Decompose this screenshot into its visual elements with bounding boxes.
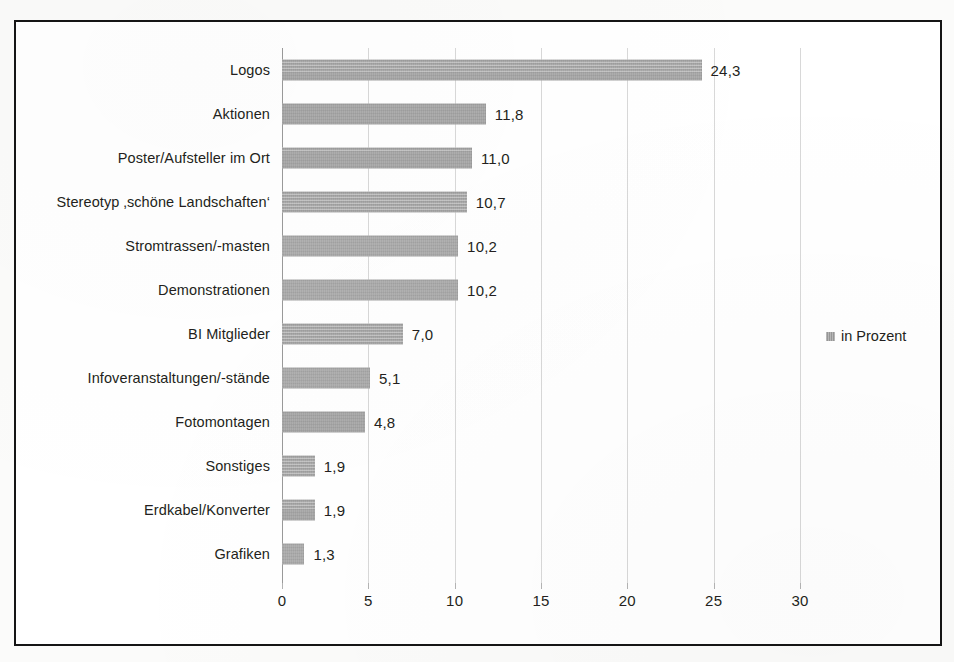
chart-bar-row: Sonstiges1,9: [0, 444, 954, 488]
legend-label: in Prozent: [841, 328, 906, 344]
chart-bar-row: Infoveranstaltungen/-stände5,1: [0, 356, 954, 400]
x-axis-tick-label: 10: [435, 592, 475, 609]
x-axis-tick: [455, 583, 456, 589]
chart-bar-row: Demonstrationen10,2: [0, 268, 954, 312]
chart-bar-row: Erdkabel/Konverter1,9: [0, 488, 954, 532]
chart-plot-area: 051015202530Logos24,3Aktionen11,8Poster/…: [0, 0, 954, 662]
category-label: Stereotyp ‚schöne Landschaften‘: [57, 194, 271, 210]
chart-bar-row: Poster/Aufsteller im Ort11,0: [0, 136, 954, 180]
bar-value-label: 24,3: [711, 62, 741, 79]
category-label: Sonstiges: [205, 458, 270, 474]
bar-value-label: 1,9: [324, 502, 345, 519]
bar-value-label: 4,8: [374, 414, 395, 431]
chart-bar: [282, 368, 370, 389]
x-axis-tick: [714, 583, 715, 589]
x-axis-tick-label: 15: [521, 592, 561, 609]
category-label: Fotomontagen: [175, 414, 270, 430]
category-label: Infoveranstaltungen/-stände: [88, 370, 270, 386]
chart-bar: [282, 236, 458, 257]
category-label: Poster/Aufsteller im Ort: [118, 150, 270, 166]
bar-value-label: 10,2: [467, 238, 497, 255]
chart-bar: [282, 412, 365, 433]
bar-value-label: 10,2: [467, 282, 497, 299]
chart-bar-row: Stromtrassen/-masten10,2: [0, 224, 954, 268]
bar-value-label: 1,9: [324, 458, 345, 475]
chart-legend: in Prozent: [826, 328, 906, 344]
chart-bar: [282, 148, 472, 169]
x-axis-tick: [368, 583, 369, 589]
x-axis-tick-label: 30: [780, 592, 820, 609]
chart-bar: [282, 324, 403, 345]
chart-bar-row: Logos24,3: [0, 48, 954, 92]
x-axis-tick-label: 0: [262, 592, 302, 609]
chart-bar-row: Fotomontagen4,8: [0, 400, 954, 444]
category-label: Logos: [230, 62, 270, 78]
chart-bar: [282, 456, 315, 477]
category-label: Demonstrationen: [158, 282, 270, 298]
bar-value-label: 11,0: [481, 150, 510, 167]
x-axis-tick-label: 5: [348, 592, 388, 609]
legend-swatch-icon: [826, 332, 835, 341]
x-axis-tick: [282, 583, 283, 589]
bar-value-label: 1,3: [313, 546, 334, 563]
chart-bar-row: Stereotyp ‚schöne Landschaften‘10,7: [0, 180, 954, 224]
chart-bar-row: Grafiken1,3: [0, 532, 954, 576]
scanned-chart-page: 051015202530Logos24,3Aktionen11,8Poster/…: [0, 0, 954, 662]
chart-bar: [282, 280, 458, 301]
category-label: BI Mitglieder: [188, 326, 270, 342]
bar-value-label: 10,7: [476, 194, 506, 211]
chart-bar: [282, 192, 467, 213]
x-axis-tick: [627, 583, 628, 589]
category-label: Grafiken: [214, 546, 270, 562]
x-axis-tick: [800, 583, 801, 589]
category-label: Stromtrassen/-masten: [125, 238, 270, 254]
category-label: Erdkabel/Konverter: [144, 502, 270, 518]
x-axis-tick-label: 25: [694, 592, 734, 609]
bar-value-label: 11,8: [495, 106, 524, 123]
chart-bar: [282, 500, 315, 521]
x-axis-tick: [541, 583, 542, 589]
category-label: Aktionen: [213, 106, 270, 122]
bar-value-label: 7,0: [412, 326, 433, 343]
chart-bar-row: Aktionen11,8: [0, 92, 954, 136]
chart-bar-row: BI Mitglieder7,0: [0, 312, 954, 356]
chart-bar: [282, 544, 304, 565]
bar-value-label: 5,1: [379, 370, 400, 387]
chart-bar: [282, 60, 702, 81]
x-axis-tick-label: 20: [607, 592, 647, 609]
chart-bar: [282, 104, 486, 125]
